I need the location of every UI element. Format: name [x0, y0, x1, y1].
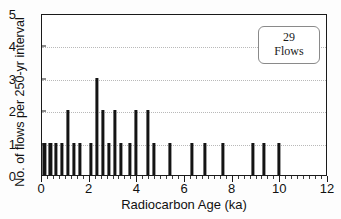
- bar: [262, 143, 265, 175]
- x-tick-label-0: 0: [37, 182, 44, 195]
- x-tick-minor-1.00: [65, 176, 66, 179]
- y-tick-label-5: 5: [9, 8, 16, 21]
- bar: [168, 143, 171, 175]
- bar: [251, 143, 254, 175]
- x-tick-minor-2.25: [95, 176, 96, 179]
- x-tick-minor-11.25: [309, 176, 310, 179]
- x-tick-minor-0.50: [53, 176, 54, 179]
- x-tick-minor-7.75: [226, 176, 227, 179]
- bar: [204, 143, 207, 175]
- x-tick-minor-9.00: [256, 176, 257, 179]
- x-tick-minor-8.50: [244, 176, 245, 179]
- bar: [67, 110, 70, 175]
- x-tick-minor-6.75: [202, 176, 203, 179]
- bar: [129, 143, 132, 175]
- y-tick-label-4: 4: [9, 40, 16, 53]
- x-tick-label-12: 12: [320, 182, 334, 195]
- x-tick-minor-8.75: [250, 176, 251, 179]
- y-tick-label-0: 0: [9, 170, 16, 183]
- bar: [49, 143, 52, 175]
- x-tick-minor-3.75: [130, 176, 131, 179]
- bar: [278, 143, 281, 175]
- gridline-y-1: [42, 145, 326, 146]
- bar: [135, 110, 138, 175]
- x-tick-label-2: 2: [85, 182, 92, 195]
- gridline-y-2: [42, 112, 326, 113]
- x-tick-minor-7.50: [220, 176, 221, 179]
- x-tick-minor-10.50: [291, 176, 292, 179]
- y-tick-mark-4: [41, 46, 46, 47]
- x-tick-minor-5.25: [166, 176, 167, 179]
- x-tick-minor-0.25: [47, 176, 48, 179]
- x-tick-minor-4.50: [148, 176, 149, 179]
- y-tick-mark-2: [41, 111, 46, 112]
- x-tick-minor-6.50: [196, 176, 197, 179]
- x-tick-label-6: 6: [180, 182, 187, 195]
- bar: [79, 143, 82, 175]
- x-tick-minor-10.75: [297, 176, 298, 179]
- x-tick-label-4: 4: [133, 182, 140, 195]
- x-tick-minor-11.75: [321, 176, 322, 179]
- x-axis-title: Radiocarbon Age (ka): [41, 197, 327, 212]
- flow-count-label: Flows: [274, 45, 303, 59]
- flow-count-legend-box: 29 Flows: [258, 26, 320, 64]
- x-tick-minor-9.25: [261, 176, 262, 179]
- x-tick-minor-10.25: [285, 176, 286, 179]
- x-tick-minor-1.75: [83, 176, 84, 179]
- bar: [101, 110, 104, 175]
- bar: [113, 110, 116, 175]
- bar: [95, 78, 98, 175]
- flow-count-value: 29: [283, 31, 295, 45]
- figure-canvas: No. of flows per 250-yr interval 012345 …: [0, 0, 341, 219]
- bar: [222, 143, 225, 175]
- y-tick-mark-1: [41, 143, 46, 144]
- x-tick-minor-1.25: [71, 176, 72, 179]
- x-tick-minor-2.75: [107, 176, 108, 179]
- gridline-y-3: [42, 80, 326, 81]
- y-tick-mark-3: [41, 78, 46, 79]
- x-tick-minor-3.25: [118, 176, 119, 179]
- x-tick-minor-9.50: [267, 176, 268, 179]
- x-tick-minor-3.50: [124, 176, 125, 179]
- x-tick-minor-2.50: [101, 176, 102, 179]
- y-tick-label-3: 3: [9, 72, 16, 85]
- y-tick-label-2: 2: [9, 105, 16, 118]
- bar: [43, 143, 46, 175]
- x-tick-minor-5.50: [172, 176, 173, 179]
- bar: [107, 143, 110, 175]
- y-tick-label-1: 1: [9, 137, 16, 150]
- x-tick-minor-5.00: [160, 176, 161, 179]
- x-tick-minor-9.75: [273, 176, 274, 179]
- x-tick-minor-3.00: [113, 176, 114, 179]
- x-tick-minor-7.00: [208, 176, 209, 179]
- bar: [119, 143, 122, 175]
- x-tick-minor-11.00: [303, 176, 304, 179]
- bar: [61, 143, 64, 175]
- x-tick-minor-6.25: [190, 176, 191, 179]
- bar: [146, 110, 149, 175]
- x-tick-minor-1.50: [77, 176, 78, 179]
- bar: [152, 143, 155, 175]
- x-tick-minor-0.75: [59, 176, 60, 179]
- x-tick-minor-7.25: [214, 176, 215, 179]
- bar: [73, 143, 76, 175]
- bar: [55, 143, 58, 175]
- x-tick-minor-4.25: [142, 176, 143, 179]
- x-tick-minor-5.75: [178, 176, 179, 179]
- x-tick-minor-4.75: [154, 176, 155, 179]
- bar: [89, 143, 92, 175]
- x-tick-label-8: 8: [228, 182, 235, 195]
- y-axis-ticks: 012345: [0, 0, 41, 190]
- bar: [191, 143, 194, 175]
- x-tick-minor-8.25: [238, 176, 239, 179]
- x-tick-label-10: 10: [272, 182, 286, 195]
- x-tick-minor-11.50: [315, 176, 316, 179]
